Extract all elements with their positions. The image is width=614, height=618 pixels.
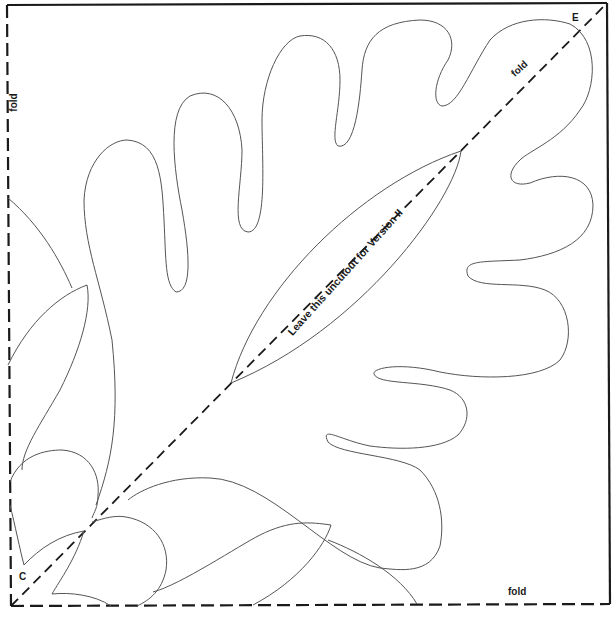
bottom-long-leaf-outline xyxy=(153,523,331,605)
left-lower-petal-outline xyxy=(8,285,88,470)
bottom-round-lobe-outline xyxy=(52,516,167,606)
corner-label-e: E xyxy=(572,12,579,23)
main-leaf-outline xyxy=(84,20,593,570)
top-edge xyxy=(7,3,607,5)
left-round-lobe-outline xyxy=(10,450,98,565)
fold-label-left: fold xyxy=(8,93,19,111)
fold-label-bottom: fold xyxy=(508,586,526,597)
left-upper-petal-outline xyxy=(8,198,72,288)
corner-label-c: C xyxy=(19,571,26,582)
bottom-fold-edge xyxy=(11,604,610,606)
right-edge xyxy=(607,3,610,604)
bottom-right-arc-outline xyxy=(328,540,417,604)
